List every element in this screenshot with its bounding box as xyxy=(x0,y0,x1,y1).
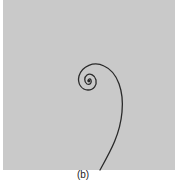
spiral-curve xyxy=(0,0,178,183)
figure-caption: (b) xyxy=(0,169,178,180)
